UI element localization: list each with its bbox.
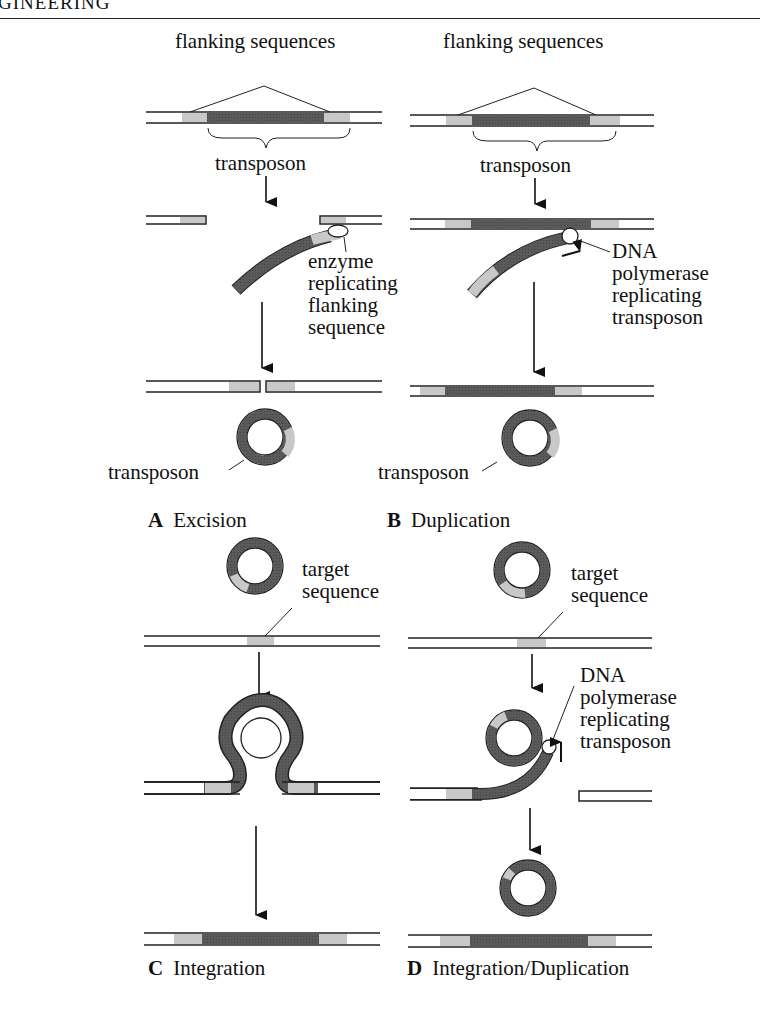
target-dna <box>144 636 380 646</box>
integrated-dna <box>408 935 652 947</box>
panel-a-excision: flanking sequences transposon enzyme rep… <box>108 29 398 532</box>
label-transposon: transposon <box>480 153 571 177</box>
dna-duplex-original <box>146 112 382 123</box>
brace <box>208 128 350 148</box>
label-transposon: transposon <box>580 729 671 753</box>
label-replicating: replicating <box>308 271 398 295</box>
integrating-loop <box>144 700 380 794</box>
integrated-dna <box>144 933 380 945</box>
direction-arrow <box>562 251 580 256</box>
label-sequence: sequence <box>571 583 648 607</box>
dna-end-fragment <box>579 791 652 801</box>
label-sequence: sequence <box>302 579 379 603</box>
enzyme-icon <box>328 225 348 237</box>
dna-with-transposon <box>410 219 654 229</box>
caption-d: DIntegration/Duplication <box>407 956 630 980</box>
cut-dna-ends <box>146 216 382 224</box>
label-target: target <box>571 561 619 585</box>
label-transposon: transposon <box>612 305 703 329</box>
label-transposon: transposon <box>215 151 306 175</box>
caption-b: BDuplication <box>387 508 511 532</box>
transposon-figure: flanking sequences transposon enzyme rep… <box>0 0 760 1028</box>
label-flanking: flanking <box>308 293 378 317</box>
circular-transposon <box>494 542 550 598</box>
panel-b-duplication: flanking sequences transposon DNA polyme… <box>378 29 709 532</box>
flanking-pointer-lines <box>190 86 330 112</box>
label-dna: DNA <box>612 239 658 263</box>
caption-a: AExcision <box>148 508 247 532</box>
released-circle <box>500 860 556 916</box>
circular-transposon <box>227 538 283 594</box>
label-replicating: replicating <box>580 707 670 731</box>
target-dna <box>408 638 652 648</box>
label-flanking-sequences: flanking sequences <box>443 29 603 53</box>
label-polymerase: polymerase <box>580 685 677 709</box>
label-flanking-sequences: flanking sequences <box>175 29 335 53</box>
label-dna: DNA <box>580 663 626 687</box>
label-circle-transposon: transposon <box>108 460 199 484</box>
label-enzyme: enzyme <box>308 249 373 273</box>
circular-transposon <box>237 409 293 465</box>
rejoined-dna <box>146 381 382 392</box>
panel-c-integration: target sequence <box>144 538 380 980</box>
dna-polymerase-icon <box>562 228 578 244</box>
label-circle-transposon: transposon <box>378 460 469 484</box>
label-polymerase: polymerase <box>612 261 709 285</box>
label-target: target <box>302 557 350 581</box>
label-sequence: sequence <box>308 315 385 339</box>
caption-c: CIntegration <box>148 956 266 980</box>
dna-with-transposon-result <box>410 386 654 396</box>
dna-duplex-original <box>410 115 654 126</box>
dna-polymerase-icon <box>542 740 556 754</box>
circular-transposon <box>502 410 558 466</box>
panel-d-integration-duplication: target sequence DNA polymerase replicati… <box>407 542 677 980</box>
label-replicating: replicating <box>612 283 702 307</box>
